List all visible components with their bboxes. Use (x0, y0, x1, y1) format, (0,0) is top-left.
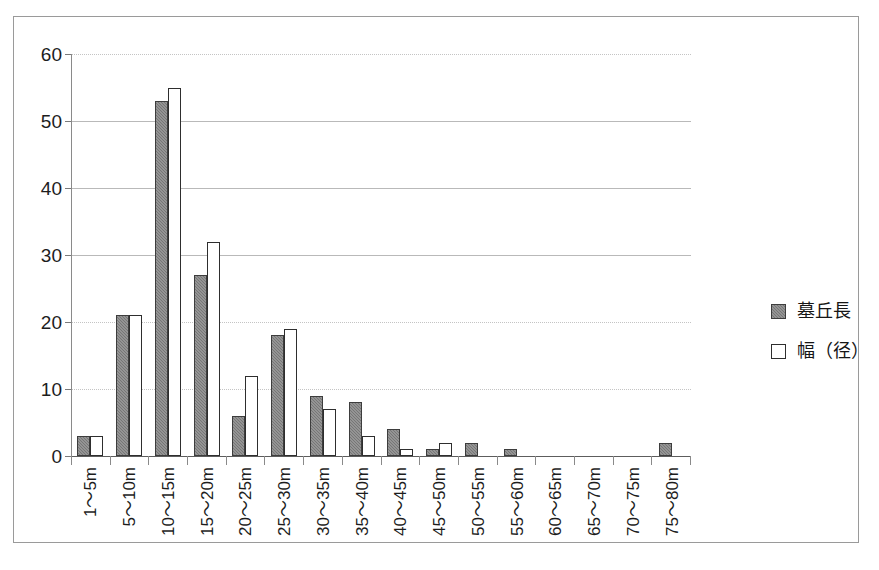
bar[interactable] (504, 449, 517, 456)
bar[interactable] (362, 436, 375, 456)
legend-label-series-a: 墓丘長 (797, 302, 851, 320)
bar-pair (581, 54, 607, 456)
bar-pair (77, 54, 103, 456)
bar[interactable] (271, 335, 284, 456)
bar[interactable] (168, 88, 181, 457)
bar[interactable] (310, 396, 323, 456)
bar[interactable] (659, 443, 672, 456)
bar-category-group (614, 54, 653, 456)
category-label: 35～40m (353, 467, 370, 536)
category-label-cell: 35～40m (342, 467, 381, 562)
bar-category-group (71, 54, 110, 456)
category-label-cell: 45～50m (420, 467, 459, 562)
category-label-cell: 1～5m (71, 467, 110, 562)
bar[interactable] (207, 242, 220, 456)
ytick-label-20: 20 (41, 313, 62, 332)
category-tick (304, 456, 343, 465)
category-label: 50～55m (469, 467, 486, 536)
category-label-cell: 60～65m (536, 467, 575, 562)
category-label: 45～50m (431, 467, 448, 536)
category-tick (111, 456, 150, 465)
bar-category-group (187, 54, 226, 456)
bar-pair (387, 54, 413, 456)
bar-pair (620, 54, 646, 456)
category-label-cell: 5～10m (110, 467, 149, 562)
legend-swatch-outline-icon (771, 344, 786, 359)
category-label: 1～5m (82, 467, 99, 517)
chart-frame: 60 50 40 30 20 10 0 1～5m5～10m10～15m15～20… (13, 16, 859, 543)
bar-pair (232, 54, 258, 456)
bar-pair (116, 54, 142, 456)
legend: 墓丘長 幅（径） (771, 302, 869, 382)
category-tick (459, 456, 498, 465)
bar[interactable] (439, 443, 452, 456)
bar-category-group (420, 54, 459, 456)
bar-pair (155, 54, 181, 456)
category-label: 70～75m (624, 467, 641, 536)
category-label-cell: 75～80m (652, 467, 691, 562)
bar-category-group (110, 54, 149, 456)
category-label: 5～10m (121, 467, 138, 527)
ytick-label-60: 60 (41, 45, 62, 64)
category-label-cell: 20～25m (226, 467, 265, 562)
bar[interactable] (323, 409, 336, 456)
bar[interactable] (116, 315, 129, 456)
bar-category-group (575, 54, 614, 456)
category-label: 25～30m (276, 467, 293, 536)
bar-category-group (652, 54, 691, 456)
category-label-cell: 55～60m (497, 467, 536, 562)
ytick-label-50: 50 (41, 112, 62, 131)
bar[interactable] (400, 449, 413, 456)
bar-pair (194, 54, 220, 456)
bar[interactable] (77, 436, 90, 456)
bar[interactable] (284, 329, 297, 456)
category-tick (265, 456, 304, 465)
bar-category-group (226, 54, 265, 456)
bar-group (71, 54, 691, 456)
bar-pair (659, 54, 685, 456)
bar-pair (426, 54, 452, 456)
bar[interactable] (90, 436, 103, 456)
category-label-cell: 30～35m (304, 467, 343, 562)
bar-pair (271, 54, 297, 456)
category-axis-labels: 1～5m5～10m10～15m15～20m20～25m25～30m30～35m3… (71, 467, 691, 562)
legend-item-series-b[interactable]: 幅（径） (771, 342, 869, 360)
bar-category-group (342, 54, 381, 456)
legend-item-series-a[interactable]: 墓丘長 (771, 302, 869, 320)
ytick-label-40: 40 (41, 179, 62, 198)
category-tick (149, 456, 188, 465)
bar-pair (349, 54, 375, 456)
ytick-label-10: 10 (41, 380, 62, 399)
bar[interactable] (465, 443, 478, 456)
category-label-cell: 15～20m (187, 467, 226, 562)
bar-pair (465, 54, 491, 456)
bar[interactable] (426, 449, 439, 456)
plot-area: 60 50 40 30 20 10 0 (71, 54, 691, 456)
bar[interactable] (349, 402, 362, 456)
bar[interactable] (245, 376, 258, 456)
category-label: 65～70m (586, 467, 603, 536)
category-tick (536, 456, 575, 465)
bar-category-group (149, 54, 188, 456)
category-tick (382, 456, 421, 465)
category-label: 75～80m (663, 467, 680, 536)
category-label: 30～35m (314, 467, 331, 536)
category-tick (71, 456, 111, 465)
category-label: 20～25m (237, 467, 254, 536)
bar-category-group (497, 54, 536, 456)
bar[interactable] (129, 315, 142, 456)
bar-pair (310, 54, 336, 456)
category-tick (188, 456, 227, 465)
category-tick-marks (71, 456, 691, 465)
category-tick (498, 456, 537, 465)
category-label-cell: 70～75m (614, 467, 653, 562)
bar-category-group (536, 54, 575, 456)
category-label: 60～65m (547, 467, 564, 536)
bar[interactable] (232, 416, 245, 456)
category-tick (227, 456, 266, 465)
category-label-cell: 65～70m (575, 467, 614, 562)
ytick-label-0: 0 (51, 447, 62, 466)
bar[interactable] (155, 101, 168, 456)
bar[interactable] (387, 429, 400, 456)
bar[interactable] (194, 275, 207, 456)
